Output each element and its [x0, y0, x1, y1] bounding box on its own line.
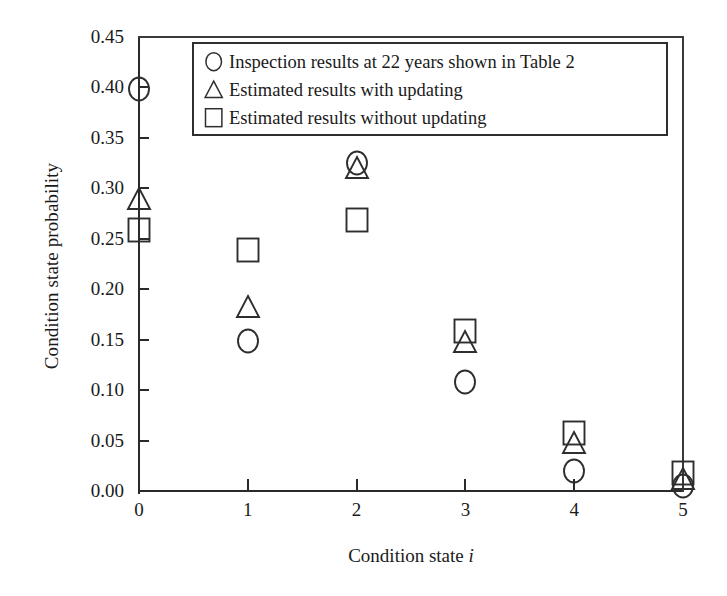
y-axis-title: Condition state probability	[41, 96, 63, 436]
x-axis-tick-label: 4	[554, 500, 594, 519]
x-axis-title: Condition state i	[138, 545, 684, 567]
y-axis-tick	[140, 339, 149, 341]
y-axis-tick-label: 0.15	[62, 330, 124, 349]
axis-line-left	[138, 36, 140, 494]
data-point-square	[559, 418, 589, 448]
legend-item: Inspection results at 22 years shown in …	[194, 48, 666, 76]
legend-item: Estimated results with updating	[194, 76, 666, 104]
legend-item-label: Inspection results at 22 years shown in …	[227, 53, 575, 72]
x-axis-tick-label: 2	[337, 500, 377, 519]
axis-line-right	[682, 36, 684, 492]
data-point-triangle	[124, 184, 154, 214]
y-axis-tick-label: 0.00	[62, 481, 124, 500]
circle-marker-icon	[201, 50, 227, 74]
axis-line-top	[138, 36, 684, 38]
scatter-chart-figure: 0.000.050.100.150.200.250.300.350.400.45…	[0, 0, 727, 596]
y-axis-tick	[140, 137, 149, 139]
y-axis-tick-label: 0.45	[62, 27, 124, 46]
x-axis-tick	[247, 479, 249, 490]
data-point-circle	[233, 326, 263, 356]
x-axis-tick-label: 1	[228, 500, 268, 519]
y-axis-tick	[140, 288, 149, 290]
x-axis-tick	[356, 479, 358, 490]
data-point-triangle	[342, 153, 372, 183]
square-marker-icon	[201, 106, 227, 130]
y-axis-tick-label: 0.30	[62, 178, 124, 197]
y-axis-tick-label: 0.10	[62, 380, 124, 399]
legend-item: Estimated results without updating	[194, 104, 666, 132]
data-point-triangle	[233, 292, 263, 322]
x-axis-tick	[464, 479, 466, 490]
y-axis-tick-label: 0.40	[62, 77, 124, 96]
legend-box: Inspection results at 22 years shown in …	[192, 42, 668, 136]
data-point-square	[450, 316, 480, 346]
x-axis-tick-label: 3	[445, 500, 485, 519]
x-axis-title-text: Condition state	[348, 545, 468, 566]
data-point-square	[233, 235, 263, 265]
x-axis-tick-label: 5	[663, 500, 703, 519]
data-point-circle	[124, 74, 154, 104]
y-axis-tick-label: 0.25	[62, 229, 124, 248]
y-axis-tick	[140, 389, 149, 391]
data-point-square	[668, 458, 698, 488]
y-axis-tick-label: 0.35	[62, 128, 124, 147]
y-axis-tick-label: 0.05	[62, 431, 124, 450]
y-axis-tick	[140, 440, 149, 442]
x-axis-title-variable: i	[469, 545, 474, 566]
legend-item-label: Estimated results without updating	[227, 109, 486, 128]
data-point-circle	[559, 456, 589, 486]
legend-item-label: Estimated results with updating	[227, 81, 463, 100]
data-point-circle	[450, 367, 480, 397]
data-point-square	[342, 205, 372, 235]
x-axis-tick-label: 0	[119, 500, 159, 519]
axis-line-bottom	[138, 490, 684, 492]
triangle-marker-icon	[201, 78, 227, 102]
data-point-square	[124, 215, 154, 245]
y-axis-tick-label: 0.20	[62, 279, 124, 298]
